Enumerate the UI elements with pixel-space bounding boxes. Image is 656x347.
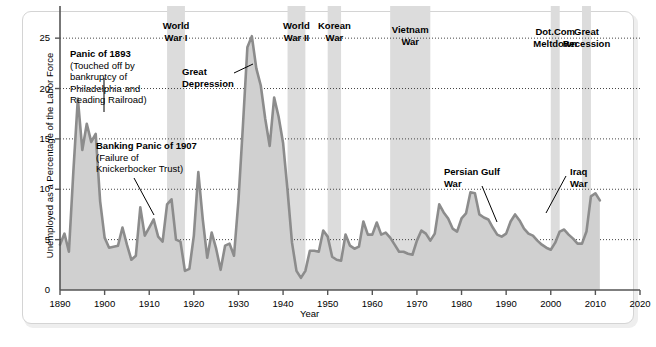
annotation-body-banking-panic-1907: (Failure of Knickerbocker Trust)	[96, 152, 241, 175]
y-tick-label-15: 15	[20, 133, 50, 144]
x-tick-label-1890: 1890	[35, 298, 85, 309]
annotation-title-banking-panic-1907: Banking Panic of 1907	[96, 140, 241, 152]
annotation-great-depression: Great Depression	[182, 66, 246, 89]
annotation-title-great-depression: Great Depression	[182, 66, 246, 89]
y-tick-label-5: 5	[20, 234, 50, 245]
x-tick-label-2010: 2010	[570, 298, 620, 309]
y-tick-label-20: 20	[20, 83, 50, 94]
x-tick-label-2020: 2020	[615, 298, 656, 309]
x-tick-label-1920: 1920	[169, 298, 219, 309]
x-tick-label-1950: 1950	[303, 298, 353, 309]
x-tick-label-1970: 1970	[392, 298, 442, 309]
x-tick-label-1960: 1960	[347, 298, 397, 309]
x-tick-label-2000: 2000	[526, 298, 576, 309]
y-tick-label-25: 25	[20, 32, 50, 43]
annotation-title-panic-1893: Panic of 1893	[70, 48, 190, 60]
y-tick-label-10: 10	[20, 183, 50, 194]
x-tick-label-1900: 1900	[80, 298, 130, 309]
annotation-iraq-war: Iraq War	[570, 166, 614, 189]
x-tick-label-1910: 1910	[124, 298, 174, 309]
annotation-title-persian-gulf-war: Persian Gulf War	[444, 166, 518, 189]
band-label-great-recession: Great Recession	[550, 26, 622, 50]
figure-root: Unemployed as a Percentage of the Labor …	[0, 0, 656, 347]
annotation-title-iraq-war: Iraq War	[570, 166, 614, 189]
x-tick-label-1940: 1940	[258, 298, 308, 309]
band-label-vietnam-war: Vietnam War	[374, 24, 446, 48]
x-tick-label-1990: 1990	[481, 298, 531, 309]
band-label-world-war-1: World War I	[140, 20, 212, 44]
x-axis-title: Year	[300, 308, 319, 319]
y-tick-label-0: 0	[20, 284, 50, 295]
leader-line-banking-panic-1907	[134, 178, 154, 215]
annotation-persian-gulf-war: Persian Gulf War	[444, 166, 518, 189]
annotation-body-panic-1893: (Touched off by bankruptcy of Philadelph…	[70, 60, 190, 106]
band-label-korean-war: Korean War	[298, 20, 370, 44]
x-tick-label-1930: 1930	[213, 298, 263, 309]
annotation-panic-1893: Panic of 1893(Touched off by bankruptcy …	[70, 48, 190, 106]
annotation-banking-panic-1907: Banking Panic of 1907(Failure of Knicker…	[96, 140, 241, 175]
x-tick-label-1980: 1980	[437, 298, 487, 309]
